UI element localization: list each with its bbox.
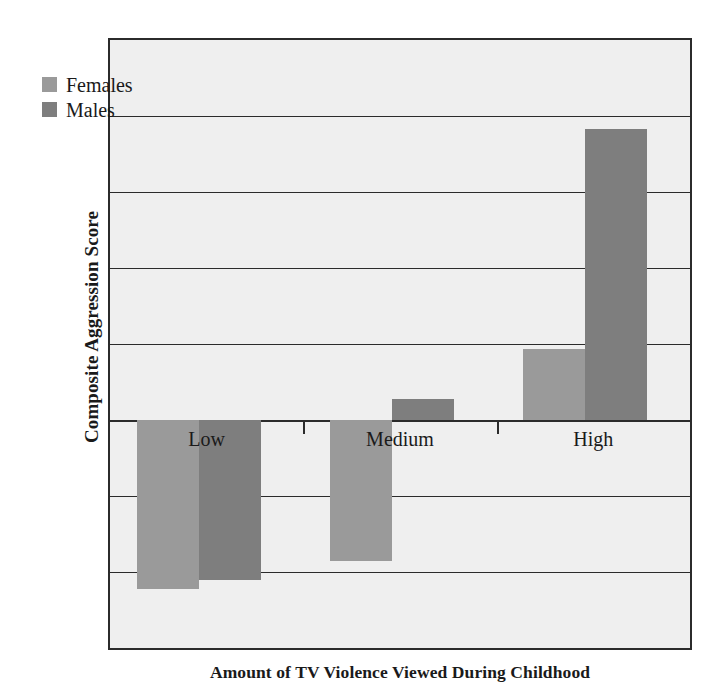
legend-swatch-males (42, 102, 57, 117)
chart-figure: Composite Aggression Score 0.50.40.30.20… (0, 0, 714, 690)
x-axis-title: Amount of TV Violence Viewed During Chil… (108, 662, 692, 683)
legend-swatch-females (42, 77, 57, 92)
category-label-low: Low (188, 429, 225, 449)
category-tick (303, 421, 305, 434)
legend-item-females: Females (42, 72, 133, 97)
bar-medium-males (392, 399, 454, 420)
y-axis-title: Composite Aggression Score (81, 137, 103, 517)
plot-area: 0.50.40.30.20.10−0.1−0.2−0.3LowMediumHig… (108, 38, 692, 650)
gridline (110, 116, 690, 117)
legend-label-females: Females (66, 75, 133, 95)
bar-high-males (585, 129, 647, 420)
category-label-high: High (573, 429, 613, 449)
category-tick (497, 421, 499, 434)
category-label-medium: Medium (366, 429, 434, 449)
chart-legend: Females Males (42, 72, 133, 122)
legend-label-males: Males (66, 100, 115, 120)
legend-item-males: Males (42, 97, 133, 122)
bar-high-females (523, 349, 585, 420)
